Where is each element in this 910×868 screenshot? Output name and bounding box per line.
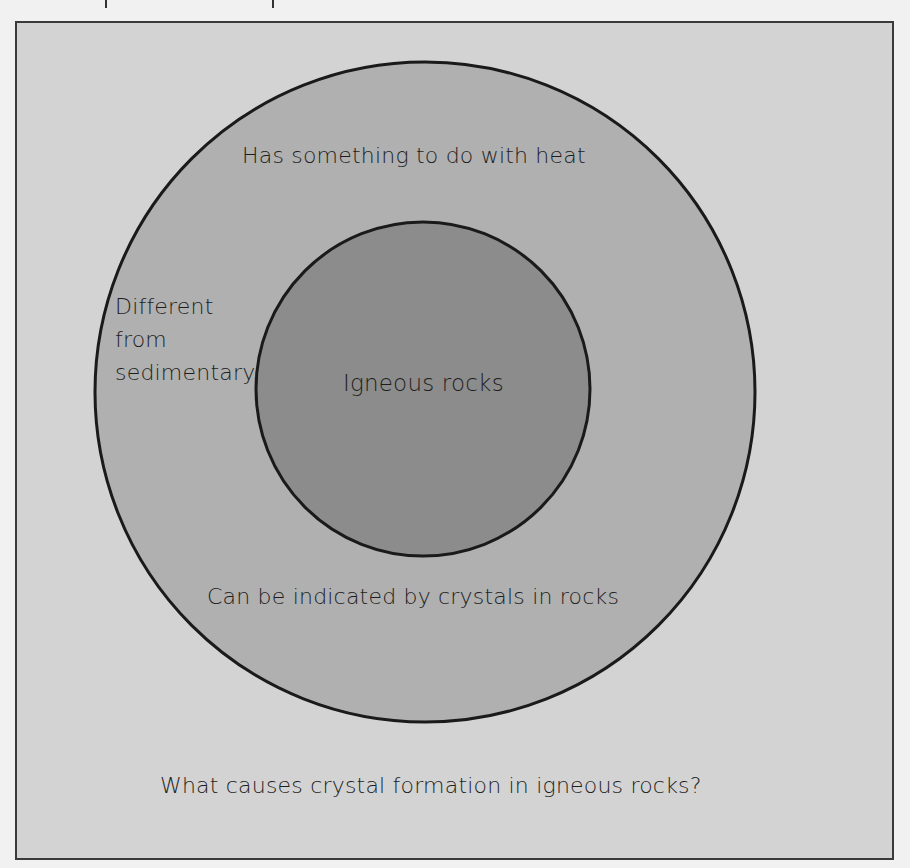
left-label-line: from [115,323,255,356]
left-label-line: Different [115,290,255,323]
outer-ring-label-bottom: Can be indicated by crystals in rocks [207,584,619,609]
center-label: Igneous rocks [343,370,504,396]
outer-ring-label-left: Different from sedimentary [115,290,255,389]
concentric-circles [0,0,910,868]
outer-ring-label-top: Has something to do with heat [242,143,586,168]
left-label-line: sedimentary [115,356,255,389]
question-text: What causes crystal formation in igneous… [160,773,702,798]
